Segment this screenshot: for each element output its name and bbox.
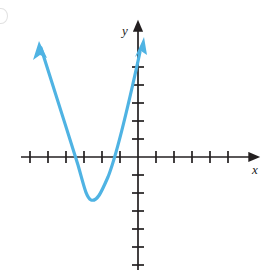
parabola-figure: y x — [0, 0, 269, 278]
coordinate-plane-svg — [0, 0, 269, 278]
y-axis-label: y — [122, 24, 128, 37]
x-axis-label: x — [252, 163, 258, 176]
parabola-curve — [41, 48, 140, 200]
